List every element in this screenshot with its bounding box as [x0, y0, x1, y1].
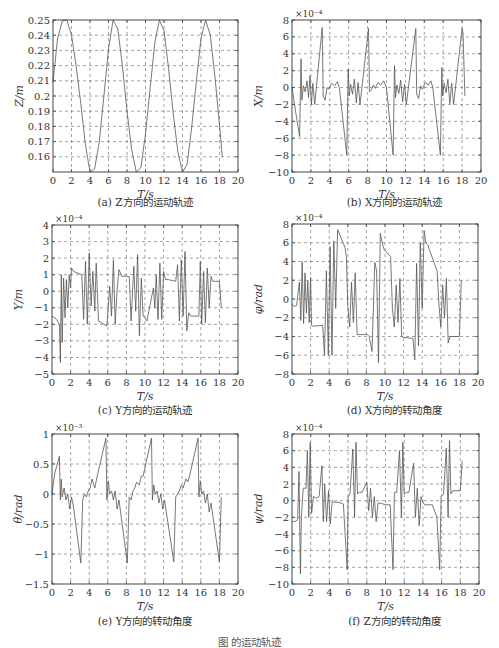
- svg-text:0: 0: [283, 294, 289, 305]
- svg-text:10: 10: [379, 587, 392, 598]
- svg-text:1: 1: [43, 429, 49, 440]
- svg-text:14: 14: [176, 587, 189, 598]
- svg-text:0.24: 0.24: [28, 30, 50, 41]
- svg-text:−6: −6: [274, 133, 289, 144]
- svg-text:0.19: 0.19: [28, 106, 50, 117]
- svg-text:4: 4: [283, 462, 289, 473]
- svg-text:4: 4: [43, 220, 49, 231]
- svg-text:8: 8: [283, 15, 289, 26]
- chart-panel-x-rotation: 02468101214161820−8−6−4−202468×10⁻⁴T/sφ/…: [250, 205, 499, 420]
- svg-text:0.21: 0.21: [28, 75, 50, 86]
- panel-caption: (e) Y方向的转动角度: [40, 613, 250, 628]
- svg-text:0: 0: [283, 495, 289, 506]
- svg-text:−8: −8: [274, 150, 289, 161]
- svg-text:16: 16: [195, 175, 208, 186]
- svg-text:20: 20: [473, 587, 486, 598]
- svg-text:−6: −6: [274, 545, 289, 556]
- chart-x-trajectory: 02468101214161820−10−8−6−4−202468×10⁻⁴T/…: [250, 0, 499, 200]
- chart-y-rotation: 02468101214161820−1.5−1−0.500.51×10⁻³T/s…: [0, 415, 250, 625]
- svg-text:16: 16: [194, 377, 207, 388]
- x-tick-labels: 02468101214161820: [50, 175, 245, 186]
- y-tick-labels: −8−6−4−202468: [274, 219, 289, 380]
- svg-text:0.22: 0.22: [28, 60, 50, 71]
- svg-text:4: 4: [326, 587, 332, 598]
- axis-multiplier: ×10⁻⁴: [55, 214, 83, 224]
- svg-text:0.25: 0.25: [28, 15, 50, 26]
- svg-text:0: 0: [283, 82, 289, 93]
- data-series-line: [292, 441, 462, 574]
- svg-text:18: 18: [213, 587, 226, 598]
- y-axis-label: θ/rad: [12, 494, 25, 523]
- svg-text:6: 6: [346, 175, 352, 186]
- svg-text:8: 8: [123, 377, 129, 388]
- svg-text:16: 16: [194, 587, 207, 598]
- x-axis-label: T/s: [137, 600, 154, 613]
- x-tick-labels: 02468101214161820: [289, 587, 486, 598]
- svg-text:−1: −1: [34, 302, 49, 313]
- svg-text:−1.5: −1.5: [25, 579, 49, 590]
- svg-text:2: 2: [67, 377, 73, 388]
- svg-text:18: 18: [454, 587, 467, 598]
- svg-text:2: 2: [68, 175, 74, 186]
- svg-text:6: 6: [105, 377, 111, 388]
- svg-text:−4: −4: [274, 331, 289, 342]
- panel-caption: (f) Z方向的转动角度: [290, 613, 499, 628]
- svg-text:8: 8: [363, 377, 369, 388]
- svg-text:4: 4: [327, 175, 333, 186]
- x-tick-labels: 02468101214161820: [289, 175, 488, 186]
- svg-text:2: 2: [308, 175, 314, 186]
- svg-text:−10: −10: [268, 579, 289, 590]
- svg-text:−3: −3: [34, 335, 49, 346]
- svg-text:0: 0: [43, 286, 49, 297]
- svg-text:8: 8: [364, 587, 370, 598]
- svg-text:12: 12: [158, 175, 171, 186]
- y-axis-label: X/m: [252, 85, 265, 108]
- y-tick-labels: −1.5−1−0.500.51: [25, 429, 49, 590]
- svg-text:12: 12: [398, 587, 411, 598]
- svg-text:0: 0: [50, 175, 56, 186]
- y-tick-labels: −10−8−6−4−202468: [268, 429, 289, 590]
- svg-text:4: 4: [283, 48, 289, 59]
- svg-text:4: 4: [86, 587, 92, 598]
- svg-text:10: 10: [139, 587, 152, 598]
- axis-multiplier: ×10⁻⁴: [295, 423, 323, 433]
- svg-text:−5: −5: [34, 369, 49, 380]
- data-series-line: [292, 28, 465, 156]
- y-tick-labels: −5−4−3−2−101234: [34, 220, 49, 380]
- svg-text:6: 6: [283, 237, 289, 248]
- svg-text:10: 10: [380, 175, 393, 186]
- svg-text:6: 6: [345, 587, 351, 598]
- svg-text:4: 4: [86, 377, 92, 388]
- svg-text:2: 2: [283, 65, 289, 76]
- svg-text:2: 2: [67, 587, 73, 598]
- svg-text:14: 14: [176, 377, 189, 388]
- chart-panel-y-trajectory: 02468101214161820−5−4−3−2−101234×10⁻⁴T/s…: [0, 205, 250, 420]
- svg-text:0: 0: [289, 377, 295, 388]
- svg-text:20: 20: [232, 377, 245, 388]
- svg-text:16: 16: [437, 175, 450, 186]
- svg-text:2: 2: [283, 275, 289, 286]
- y-axis-label: ψ/rad: [252, 493, 265, 524]
- x-tick-labels: 02468101214161820: [49, 377, 245, 388]
- svg-text:8: 8: [364, 175, 370, 186]
- svg-text:1: 1: [43, 269, 49, 280]
- svg-text:20: 20: [475, 175, 488, 186]
- svg-text:16: 16: [434, 377, 447, 388]
- chart-panel-z-rotation: 02468101214161820−10−8−6−4−202468×10⁻⁴T/…: [250, 415, 499, 630]
- svg-text:4: 4: [87, 175, 93, 186]
- svg-text:8: 8: [283, 219, 289, 230]
- svg-text:−0.5: −0.5: [25, 519, 49, 530]
- svg-text:12: 12: [157, 587, 170, 598]
- figure-caption: 图 的运动轨迹: [0, 634, 499, 648]
- svg-text:−10: −10: [268, 167, 289, 178]
- svg-text:0.5: 0.5: [33, 459, 49, 470]
- svg-text:8: 8: [124, 175, 130, 186]
- data-series-line: [52, 438, 221, 563]
- svg-text:−6: −6: [274, 350, 289, 361]
- axis-multiplier: ×10⁻³: [55, 423, 83, 433]
- chart-z-trajectory: 024681012141618200.160.170.180.190.20.21…: [0, 0, 250, 200]
- svg-text:12: 12: [397, 377, 410, 388]
- grid-lines: [52, 225, 238, 374]
- svg-text:6: 6: [105, 175, 111, 186]
- svg-text:0.23: 0.23: [28, 45, 50, 56]
